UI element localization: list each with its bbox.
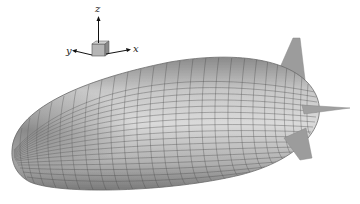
- airship-diagram: [0, 0, 360, 204]
- side-tail-fin: [302, 105, 350, 114]
- airship-hull: [12, 56, 320, 193]
- y-axis-label: y: [66, 46, 72, 56]
- coordinate-axes-triad: [72, 16, 131, 56]
- z-axis-label: z: [95, 4, 100, 14]
- origin-cube-icon: [92, 44, 105, 56]
- y-axis-arrow: [75, 51, 92, 55]
- x-axis-arrow: [106, 50, 128, 54]
- x-axis-label: x: [133, 44, 139, 54]
